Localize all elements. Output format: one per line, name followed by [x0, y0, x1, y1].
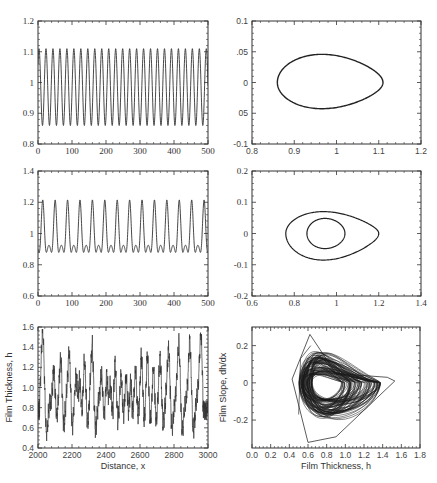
y-tick-label: -0.2	[234, 291, 248, 301]
chart-panel-p5: 2000220024002600280030000.40.60.81.01.21…	[4, 322, 218, 471]
y-tick-label: 0	[243, 78, 248, 88]
y-tick-label: 0.2	[237, 166, 248, 176]
y-tick-label: 1	[30, 229, 35, 239]
x-tick-label: 0.2	[265, 450, 277, 460]
x-tick-label: 1.0	[339, 450, 351, 460]
y-tick-label: 0.1	[237, 197, 248, 207]
x-tick-label: 100	[65, 298, 79, 308]
x-tick-label: 400	[167, 146, 181, 156]
x-tick-label: 0.8	[321, 450, 333, 460]
y-tick-label: 0.2	[236, 341, 248, 351]
x-tick-label: 1.2	[373, 298, 384, 308]
x-tick-label: 1	[334, 298, 339, 308]
x-tick-label: 1.4	[377, 450, 389, 460]
y-tick-label: 1.6	[22, 322, 34, 332]
x-tick-label: 200	[99, 146, 113, 156]
y-tick-label: 1.0	[22, 383, 34, 393]
y-tick-label: 0.8	[23, 139, 35, 149]
x-tick-label: 1.1	[373, 146, 385, 156]
x-axis-label: Film Thickness, h	[301, 461, 371, 471]
y-tick-label: -0.2	[233, 415, 248, 425]
y-tick-label: 1.4	[23, 166, 35, 176]
y-tick-label: .05	[236, 47, 248, 57]
data-series	[292, 334, 395, 442]
data-series	[286, 212, 379, 260]
x-tick-label: 0	[36, 298, 41, 308]
y-tick-label: 1.1	[23, 47, 34, 57]
x-tick-label: 500	[201, 146, 215, 156]
x-tick-label: 2600	[131, 450, 150, 460]
x-tick-label: 0.8	[289, 298, 301, 308]
x-tick-label: 1.6	[395, 450, 407, 460]
y-tick-label: 1.4	[22, 342, 34, 352]
y-axis-label: Film Thickness, h	[4, 353, 14, 423]
x-tick-label: 0.0	[246, 450, 258, 460]
data-series	[277, 54, 383, 108]
x-tick-label: 0	[36, 146, 41, 156]
y-tick-label: 1.2	[22, 362, 34, 372]
x-tick-label: 2200	[63, 450, 82, 460]
data-series	[38, 49, 208, 126]
data-series	[38, 200, 208, 253]
x-tick-label: 200	[99, 298, 113, 308]
x-tick-label: 0.6	[246, 298, 258, 308]
data-series	[38, 329, 208, 441]
x-tick-label: 0.4	[283, 450, 295, 460]
y-tick-label: 0.9	[23, 108, 35, 118]
y-tick-label: 0.8	[23, 260, 35, 270]
y-tick-label: 05	[239, 108, 249, 118]
chart-panel-p2: 0.80.911.11.2-0.1050.050.1	[233, 16, 427, 156]
x-tick-label: 0.6	[302, 450, 314, 460]
y-tick-label: 0	[244, 229, 249, 239]
plot-frame	[252, 171, 421, 296]
y-tick-label: 0	[243, 378, 248, 388]
y-tick-label: 1.2	[23, 197, 34, 207]
y-axis-label: Film Slope, dh/dx	[218, 352, 228, 422]
y-tick-label: 1	[30, 78, 35, 88]
plot-frame	[252, 327, 420, 448]
x-tick-label: 500	[201, 298, 215, 308]
x-tick-label: 2800	[165, 450, 184, 460]
y-tick-label: -0.1	[233, 139, 248, 149]
y-tick-label: 1.2	[23, 16, 34, 26]
x-tick-label: 2400	[97, 450, 116, 460]
x-tick-label: 1.2	[358, 450, 370, 460]
x-tick-label: 400	[167, 298, 181, 308]
figure-canvas: 01002003004005000.80.911.11.20.80.911.11…	[0, 0, 437, 483]
x-tick-label: 1	[334, 146, 339, 156]
chart-panel-p6: 0.00.20.40.60.81.01.21.41.61.8-0.200.2Fi…	[218, 327, 426, 471]
y-tick-label: 0.1	[236, 16, 248, 26]
x-tick-label: 300	[133, 298, 147, 308]
x-tick-label: 1.8	[414, 450, 426, 460]
y-tick-label: 0.6	[23, 291, 35, 301]
x-tick-label: 1.4	[415, 298, 427, 308]
x-tick-label: 100	[65, 146, 79, 156]
y-tick-label: 0.6	[22, 423, 34, 433]
chart-panel-p3: 01002003004005000.60.811.21.4	[23, 166, 216, 308]
chart-panel-p4: 0.60.811.21.4-0.2-0.100.10.2	[234, 166, 427, 308]
x-tick-label: 1.2	[415, 146, 427, 156]
x-tick-label: 0.9	[288, 146, 300, 156]
y-tick-label: 0.4	[22, 443, 34, 453]
x-tick-label: 3000	[199, 450, 218, 460]
x-axis-label: Distance, x	[101, 461, 146, 471]
y-tick-label: -0.1	[234, 260, 248, 270]
plot-frame	[38, 171, 208, 296]
chart-panel-p1: 01002003004005000.80.911.11.2	[23, 16, 216, 156]
x-tick-label: 300	[133, 146, 147, 156]
y-tick-label: 0.8	[22, 403, 34, 413]
